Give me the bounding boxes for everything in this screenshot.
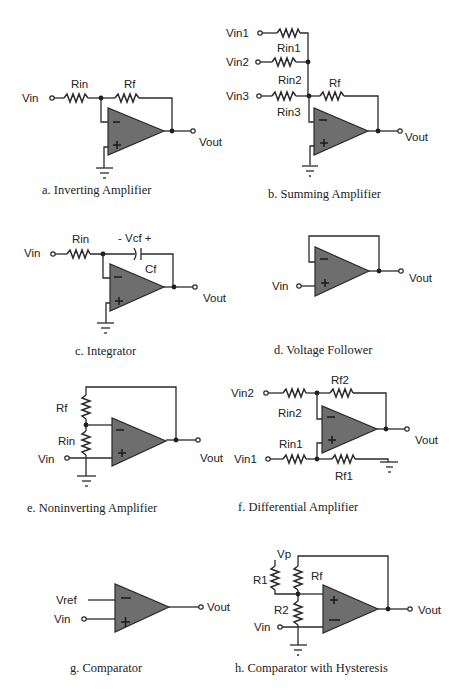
label-vout: Vout — [207, 601, 231, 613]
label-vout: Vout — [203, 292, 227, 304]
caption: a. Inverting Amplifier — [42, 183, 152, 197]
resistor-rin2 — [283, 389, 306, 397]
panel-g-comparator: Vref Vin Vout g. Comparator — [54, 584, 231, 675]
label-rf1: Rf1 — [335, 470, 353, 482]
label-vin: Vin — [38, 453, 54, 465]
opamp-circuits-figure: Vin Rin Rf Vout a. Inverting Amplifier V… — [0, 0, 464, 694]
ground-icon — [380, 462, 398, 472]
label-vp: Vp — [277, 548, 291, 560]
label-rf: Rf — [329, 77, 341, 89]
label-vin1: Vin1 — [234, 453, 257, 465]
caption: f. Differential Amplifier — [238, 500, 359, 514]
resistor-r1 — [271, 566, 279, 590]
resistor-rf — [320, 92, 344, 100]
resistor-rf — [115, 94, 139, 102]
label-vin: Vin — [272, 280, 288, 292]
resistor-rin3 — [272, 92, 296, 100]
ground-icon — [302, 166, 318, 176]
resistor-rf2 — [330, 389, 353, 397]
label-rin1: Rin1 — [279, 438, 303, 450]
caption: b. Summing Amplifier — [268, 187, 382, 201]
panel-b-summing-amplifier: Vin1 Rin1 Vin2 Rin2 Vin3 Rin3 Rf Vout — [226, 27, 429, 201]
label-rin3: Rin3 — [277, 106, 301, 118]
panel-e-noninverting-amplifier: Rf Rin Vin Vout e. Noninverting Amplifie… — [27, 387, 224, 515]
label-cf: Cf — [145, 263, 157, 275]
capacitor-cf — [134, 248, 141, 260]
label-rin: Rin — [58, 435, 75, 447]
panel-h-comparator-with-hysteresis: Vp R1 Rf R2 Vin Vout h. Comparator with … — [235, 548, 442, 675]
resistor-rf1 — [332, 455, 355, 463]
label-vout: Vout — [199, 136, 223, 148]
resistor-r2 — [294, 601, 302, 625]
opamp — [112, 418, 166, 466]
label-rf2: Rf2 — [331, 374, 349, 386]
resistor-rin — [82, 431, 90, 455]
resistor-rf — [294, 566, 302, 590]
label-vout: Vout — [200, 452, 224, 464]
label-vout: Vout — [409, 272, 433, 284]
label-vin: Vin — [24, 247, 40, 259]
label-vin2: Vin2 — [226, 56, 249, 68]
opamp — [315, 247, 369, 296]
output-terminal — [191, 129, 195, 133]
label-r2: R2 — [274, 604, 289, 616]
label-rf: Rf — [124, 78, 136, 90]
resistor-rin — [67, 250, 90, 258]
label-vin1: Vin1 — [226, 27, 249, 39]
panel-f-differential-amplifier: Vin2 Rf2 Rin2 Vout Rin1 Vin1 Rf1 — [231, 374, 439, 514]
label-r1: R1 — [253, 574, 268, 586]
resistor-rin1 — [277, 29, 300, 37]
resistor-rin1 — [283, 455, 306, 463]
label-rf: Rf — [56, 402, 68, 414]
label-vin2: Vin2 — [231, 387, 254, 399]
label-vref: Vref — [56, 594, 77, 606]
opamp — [322, 406, 377, 453]
label-vin: Vin — [54, 613, 70, 625]
label-vin: Vin — [22, 92, 38, 104]
resistor-rin2 — [272, 58, 296, 66]
label-rin: Rin — [71, 78, 88, 90]
ground-icon — [290, 645, 307, 655]
caption: d. Voltage Follower — [274, 343, 373, 357]
opamp — [323, 585, 378, 633]
input-terminal — [50, 96, 54, 100]
panel-a-inverting-amplifier: Vin Rin Rf Vout a. Inverting Amplifier — [22, 78, 223, 197]
label-rf: Rf — [311, 570, 323, 582]
opamp — [115, 584, 169, 632]
resistor-rin — [64, 94, 88, 102]
ground-icon — [97, 323, 114, 333]
opamp — [314, 108, 368, 155]
resistor-rf — [82, 395, 90, 419]
label-rin2: Rin2 — [278, 74, 302, 86]
label-vout: Vout — [405, 131, 429, 143]
caption: c. Integrator — [75, 344, 137, 358]
ground-icon — [96, 168, 113, 178]
label-rin2: Rin2 — [278, 407, 302, 419]
label-vin: Vin — [254, 621, 270, 633]
caption: h. Comparator with Hysteresis — [235, 661, 388, 675]
ground-icon — [77, 476, 96, 486]
label-vin3: Vin3 — [226, 90, 249, 102]
label-vcf: - Vcf + — [118, 232, 152, 244]
caption: e. Noninverting Amplifier — [27, 501, 158, 515]
label-vout: Vout — [415, 434, 439, 446]
panel-c-integrator: Vin Rin - Vcf + Cf Vout c. Integrator — [24, 232, 227, 358]
caption: g. Comparator — [70, 661, 143, 675]
label-rin1: Rin1 — [277, 42, 301, 54]
label-rin: Rin — [72, 233, 89, 245]
panel-d-voltage-follower: Vout Vin d. Voltage Follower — [272, 236, 433, 357]
label-vout: Vout — [418, 604, 442, 616]
